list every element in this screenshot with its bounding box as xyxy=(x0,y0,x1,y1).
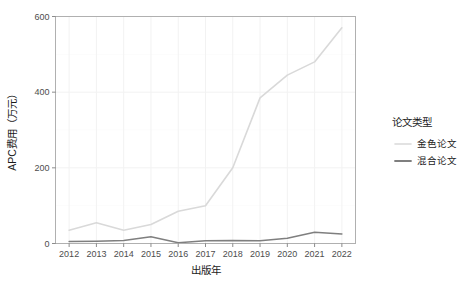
x-axis-tick-label: 2022 xyxy=(332,249,352,259)
x-axis-title: 出版年 xyxy=(191,264,221,276)
y-axis-tick-label: 400 xyxy=(34,87,49,97)
chart-container: 0200400600201220132014201520162017201820… xyxy=(0,0,466,289)
x-axis-tick-label: 2021 xyxy=(305,249,325,259)
x-axis-tick-label: 2018 xyxy=(223,249,243,259)
y-axis-tick-label: 0 xyxy=(44,239,49,249)
x-axis-tick-label: 2016 xyxy=(168,249,188,259)
x-axis-tick-label: 2012 xyxy=(59,249,79,259)
x-axis-tick-label: 2014 xyxy=(114,249,134,259)
y-axis-tick-label: 200 xyxy=(34,163,49,173)
line-chart: 0200400600201220132014201520162017201820… xyxy=(0,0,466,289)
y-axis-tick-label: 600 xyxy=(34,12,49,22)
x-axis-tick-label: 2019 xyxy=(250,249,270,259)
legend-title: 论文类型 xyxy=(392,116,432,128)
y-axis-title: APC费用（万元） xyxy=(6,89,18,171)
x-axis-tick-label: 2020 xyxy=(277,249,297,259)
x-axis-tick-label: 2015 xyxy=(141,249,161,259)
legend-item-label[interactable]: 混合论文 xyxy=(417,155,457,166)
x-axis-tick-label: 2013 xyxy=(86,249,106,259)
legend-item-label[interactable]: 金色论文 xyxy=(417,138,457,149)
x-axis-tick-label: 2017 xyxy=(195,249,215,259)
